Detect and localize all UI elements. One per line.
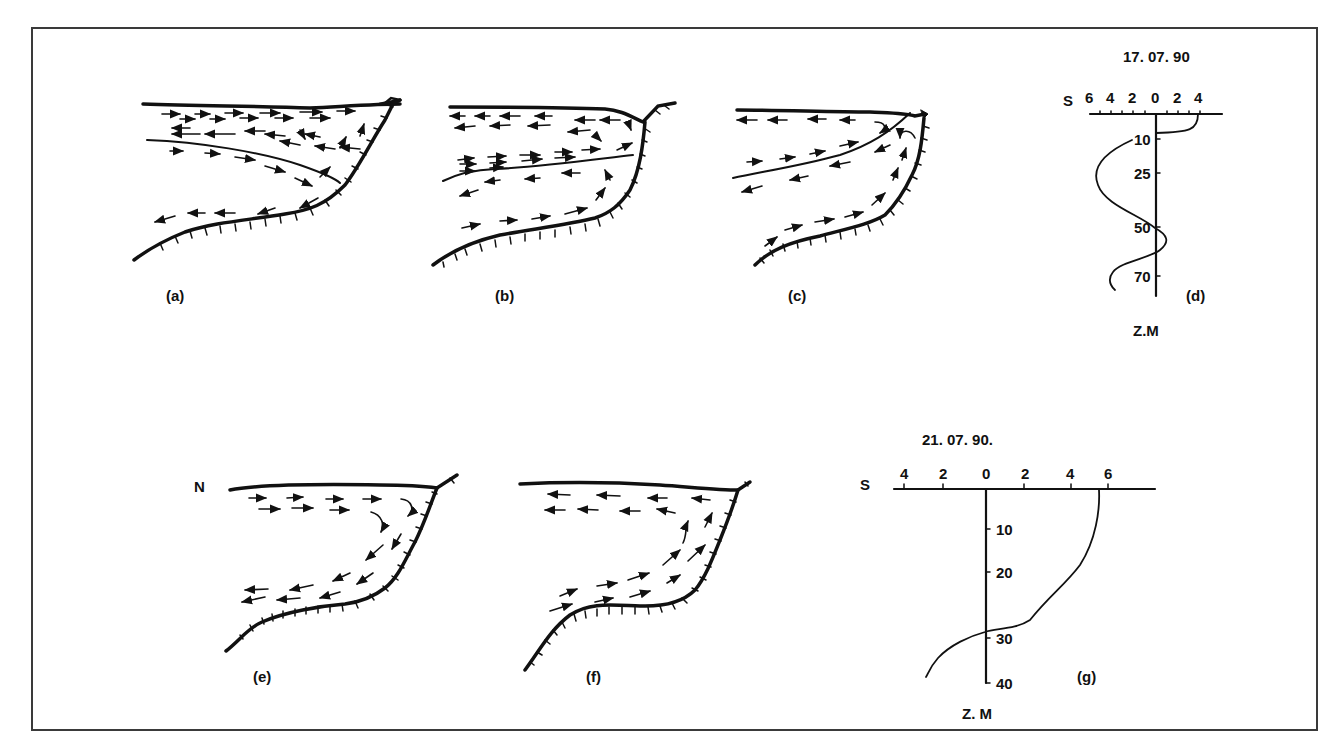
profile-d-xtick: 6 (1085, 89, 1093, 106)
panel-f-section (520, 482, 750, 670)
profile-d-date: 17. 07. 90 (1123, 48, 1190, 65)
profile-d-xtick: 0 (1151, 89, 1159, 106)
profile-g-depth-tick: 40 (996, 675, 1013, 692)
panel-a-section (134, 98, 400, 291)
panel-e-section (226, 475, 457, 651)
profile-d-depth-tick: 70 (1134, 268, 1151, 285)
panel-b-section (433, 103, 675, 267)
profile-d-s-label: S (1063, 92, 1073, 109)
profile-d-xtick: 2 (1128, 89, 1136, 106)
panel-label-c: (c) (788, 287, 806, 304)
panel-g-profile (894, 484, 1155, 683)
panel-label-d: (d) (1186, 287, 1205, 304)
profile-g-xtick: 4 (1066, 465, 1074, 482)
profile-g-xtick: 6 (1104, 465, 1112, 482)
profile-g-xtick: 2 (939, 465, 947, 482)
profile-g-s-label: S (860, 476, 870, 493)
profile-g-xtick: 0 (982, 465, 990, 482)
profile-g-depth-label: Z. M (962, 705, 992, 722)
panel-label-e: (e) (253, 668, 271, 685)
panel-label-b: (b) (495, 287, 514, 304)
profile-g-depth-tick: 30 (996, 630, 1013, 647)
panel-c-section (733, 110, 929, 265)
circulation-diagram (0, 0, 1339, 756)
profile-d-depth-tick: 25 (1134, 165, 1151, 182)
profile-d-xtick: 4 (1106, 89, 1114, 106)
panel-label-a: (a) (166, 287, 184, 304)
profile-d-depth-tick: 10 (1134, 131, 1151, 148)
profile-d-xtick: 2 (1173, 89, 1181, 106)
profile-g-depth-tick: 20 (996, 564, 1013, 581)
profile-d-depth-label: Z.M (1133, 322, 1159, 339)
profile-g-xtick: 2 (1021, 465, 1029, 482)
profile-g-xtick: 4 (900, 465, 908, 482)
north-label: N (194, 478, 205, 495)
panel-label-f: (f) (586, 668, 601, 685)
panel-label-g: (g) (1077, 668, 1096, 685)
panel-d-profile (1090, 111, 1222, 296)
profile-g-depth-tick: 10 (996, 521, 1013, 538)
profile-d-depth-tick: 50 (1134, 219, 1151, 236)
profile-g-date: 21. 07. 90. (922, 431, 993, 448)
profile-d-xtick: 4 (1194, 89, 1202, 106)
